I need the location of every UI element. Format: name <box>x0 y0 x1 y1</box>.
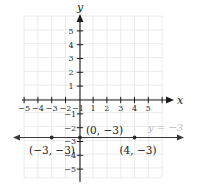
equation-label: y = −3 <box>147 122 183 133</box>
coordinate-plane-figure: −5 −4 −3 −2 −1 1 2 3 4 5 5 4 3 2 1 −1 −2… <box>0 0 198 188</box>
x-axis-label: x <box>177 94 184 107</box>
data-point <box>50 136 54 140</box>
x-tick-label: −4 <box>32 104 44 113</box>
x-tick-label: −3 <box>46 104 58 113</box>
x-tick-label: 5 <box>146 104 151 113</box>
y-axis <box>77 14 84 182</box>
point-label-left: (−3, −3) <box>29 144 75 156</box>
y-tick-label: 4 <box>68 41 73 50</box>
graph-canvas: −5 −4 −3 −2 −1 1 2 3 4 5 5 4 3 2 1 −1 −2… <box>0 0 198 188</box>
y-axis-label: y <box>76 1 84 14</box>
x-tick-label: 4 <box>132 104 137 113</box>
y-axis-arrow <box>77 14 84 22</box>
y-tick-label: 1 <box>68 82 73 91</box>
point-label-origin: (0, −3) <box>86 124 123 136</box>
y-tick-label: 2 <box>68 68 73 77</box>
y-tick-label: −2 <box>64 124 76 133</box>
y-tick-label: −5 <box>64 165 76 174</box>
line-right-arrow <box>177 135 184 141</box>
x-tick-label: 2 <box>104 104 109 113</box>
y-tick-label: 3 <box>68 54 73 63</box>
x-tick-label: 1 <box>91 104 96 113</box>
x-tick-label: −5 <box>18 104 30 113</box>
x-tick-label: 3 <box>118 104 123 113</box>
data-point <box>133 136 137 140</box>
x-axis <box>22 97 174 104</box>
line-left-arrow <box>13 135 20 141</box>
y-tick-label: 5 <box>68 27 73 36</box>
x-axis-arrow <box>166 97 174 104</box>
y-tick-label: −1 <box>64 110 76 119</box>
point-label-right: (4, −3) <box>119 144 156 156</box>
x-axis-tick-labels: −5 −4 −3 −2 −1 1 2 3 4 5 <box>18 104 151 113</box>
data-point <box>78 136 82 140</box>
